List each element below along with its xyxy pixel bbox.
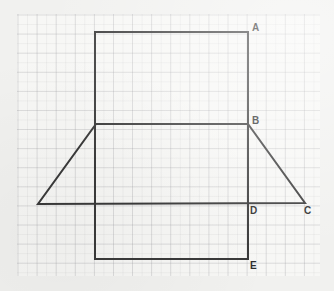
geometry-figure (0, 0, 334, 291)
vertex-label-c: C (304, 206, 311, 216)
vertex-label-e: E (250, 261, 257, 271)
trapezoid-shape (38, 124, 305, 204)
tall-rectangle (95, 32, 248, 259)
trapezoid (38, 124, 305, 204)
vertex-label-a: A (252, 23, 259, 33)
rectangle-shape (95, 32, 248, 259)
figure-canvas: ABCDE (0, 0, 334, 291)
vertex-label-d: D (250, 206, 257, 216)
vertex-label-b: B (252, 116, 259, 126)
